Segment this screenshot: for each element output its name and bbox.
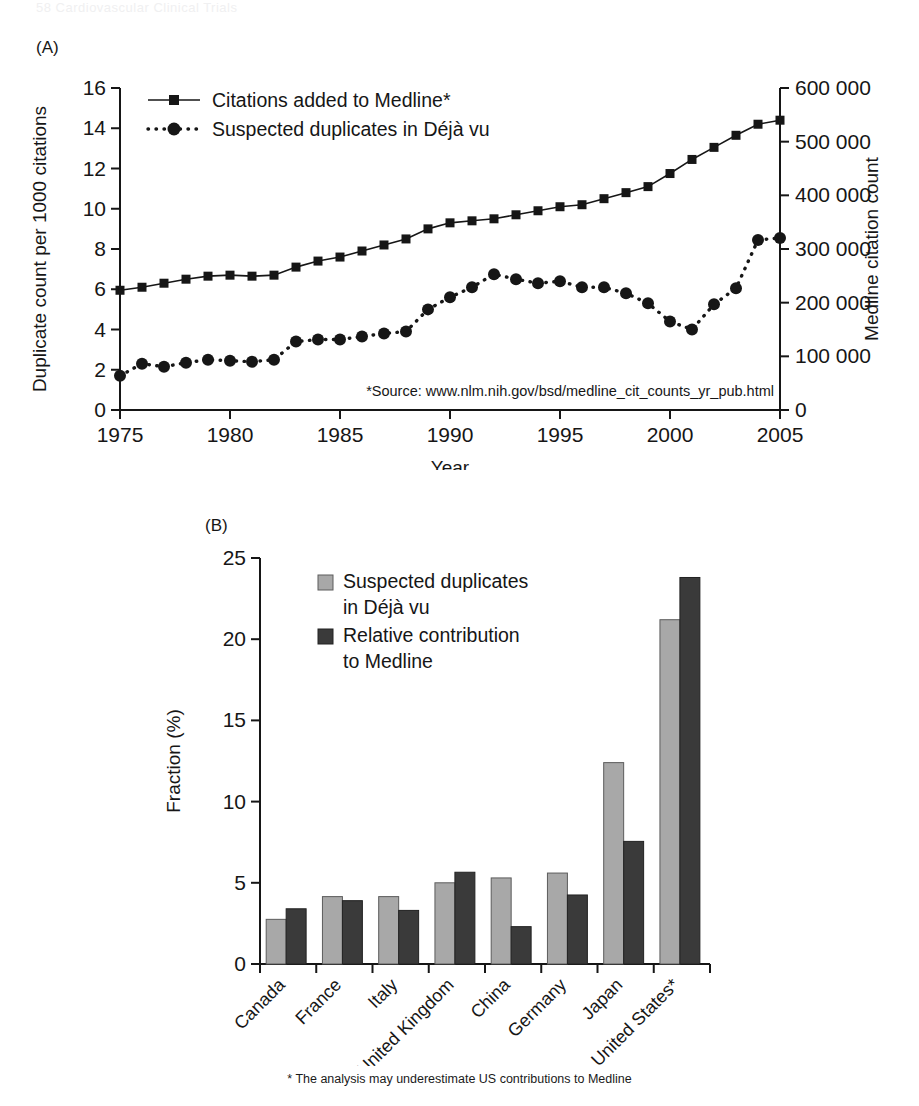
marker-duplicates <box>246 356 258 368</box>
marker-duplicates <box>444 291 456 303</box>
marker-duplicates <box>554 275 566 287</box>
bar-relative-contribution <box>342 901 362 964</box>
marker-duplicates <box>268 354 280 366</box>
marker-citations <box>358 247 367 256</box>
y-ticklabel-right: 200 000 <box>795 291 871 314</box>
legend-marker-citations <box>169 95 179 105</box>
marker-duplicates <box>356 331 368 343</box>
x-ticklabel: 1995 <box>537 423 584 446</box>
y-ticklabel-left: 14 <box>83 116 107 139</box>
y-ticklabel: 15 <box>223 708 246 731</box>
marker-citations <box>776 116 785 125</box>
marker-duplicates <box>180 357 192 369</box>
x-category-label: Germany <box>504 975 570 1041</box>
marker-citations <box>754 120 763 129</box>
bar-relative-contribution <box>399 910 419 964</box>
marker-duplicates <box>664 315 676 327</box>
x-ticklabel: 2005 <box>757 423 804 446</box>
y-ticklabel-right: 300 000 <box>795 237 871 260</box>
marker-citations <box>314 257 323 266</box>
x-category-label: China <box>467 974 515 1022</box>
panel-b-label: (B) <box>205 516 228 536</box>
marker-citations <box>270 271 279 280</box>
bar-relative-contribution <box>624 841 644 964</box>
y-ticklabel-right: 100 000 <box>795 344 871 367</box>
marker-citations <box>226 271 235 280</box>
bar-suspected-duplicates <box>604 763 624 964</box>
marker-duplicates <box>422 303 434 315</box>
marker-citations <box>688 155 697 164</box>
marker-duplicates <box>642 297 654 309</box>
legend-label-suspected-duplicates: in Déjà vu <box>343 596 430 618</box>
x-ticklabel: 1975 <box>97 423 144 446</box>
y-ticklabel-left: 8 <box>94 237 106 260</box>
marker-citations <box>732 131 741 140</box>
marker-duplicates <box>400 326 412 338</box>
legend-label-relative-contribution: to Medline <box>343 650 433 672</box>
marker-duplicates <box>290 336 302 348</box>
marker-citations <box>556 202 565 211</box>
marker-duplicates <box>620 287 632 299</box>
marker-duplicates <box>532 277 544 289</box>
figure-footnote: * The analysis may underestimate US cont… <box>0 1072 919 1086</box>
x-axis-title: Year <box>431 457 470 470</box>
marker-citations <box>710 143 719 152</box>
y-ticklabel-left: 6 <box>94 277 106 300</box>
bar-relative-contribution <box>567 895 587 964</box>
marker-citations <box>204 272 213 281</box>
legend-label-citations: Citations added to Medline* <box>212 89 451 111</box>
marker-duplicates <box>708 298 720 310</box>
marker-citations <box>182 275 191 284</box>
y-ticklabel-left: 10 <box>83 197 106 220</box>
y-ticklabel-right: 0 <box>795 398 807 421</box>
marker-citations <box>446 218 455 227</box>
marker-duplicates <box>312 334 324 346</box>
marker-duplicates <box>136 358 148 370</box>
bar-relative-contribution <box>511 927 531 964</box>
x-category-label: Canada <box>230 974 289 1033</box>
marker-duplicates <box>576 281 588 293</box>
y-ticklabel: 5 <box>234 871 246 894</box>
y-ticklabel-right: 400 000 <box>795 183 871 206</box>
y-axis-title-right: Medline citation count <box>861 156 882 340</box>
marker-citations <box>622 188 631 197</box>
y-ticklabel-left: 0 <box>94 398 106 421</box>
legend-label-duplicates: Suspected duplicates in Déjà vu <box>212 118 490 140</box>
bar-relative-contribution <box>286 909 306 964</box>
legend-swatch-suspected-duplicates <box>318 575 333 590</box>
marker-duplicates <box>202 354 214 366</box>
marker-duplicates <box>114 370 126 382</box>
y-ticklabel-left: 16 <box>83 76 106 99</box>
panel-a-label: (A) <box>36 38 59 58</box>
marker-duplicates <box>334 334 346 346</box>
marker-citations <box>380 240 389 249</box>
y-ticklabel: 10 <box>223 790 246 813</box>
y-axis-title-left: Duplicate count per 1000 citations <box>29 106 50 392</box>
y-ticklabel-left: 12 <box>83 157 106 180</box>
marker-citations <box>160 279 169 288</box>
running-header: 58 Cardiovascular Clinical Trials <box>36 0 237 15</box>
x-ticklabel: 1980 <box>207 423 254 446</box>
x-category-label: Italy <box>364 975 401 1012</box>
x-category-label: France <box>291 975 345 1029</box>
marker-duplicates <box>598 281 610 293</box>
x-ticklabel: 1990 <box>427 423 474 446</box>
marker-citations <box>578 200 587 209</box>
marker-citations <box>336 253 345 262</box>
marker-citations <box>512 210 521 219</box>
bar-relative-contribution <box>680 577 700 964</box>
source-annotation: *Source: www.nlm.nih.gov/bsd/medline_cit… <box>366 383 774 399</box>
marker-citations <box>424 224 433 233</box>
legend-label-relative-contribution: Relative contribution <box>343 624 520 646</box>
marker-citations <box>292 263 301 272</box>
y-ticklabel-right: 500 000 <box>795 130 871 153</box>
series-line-citations <box>120 120 780 290</box>
y-ticklabel: 25 <box>223 546 246 569</box>
bar-suspected-duplicates <box>547 873 567 964</box>
y-ticklabel: 0 <box>234 952 246 975</box>
legend-panel-a: Citations added to Medline*Suspected dup… <box>148 89 490 140</box>
legend-marker-duplicates <box>168 123 181 136</box>
y-ticklabel-left: 2 <box>94 358 106 381</box>
marker-duplicates <box>752 234 764 246</box>
marker-citations <box>644 182 653 191</box>
